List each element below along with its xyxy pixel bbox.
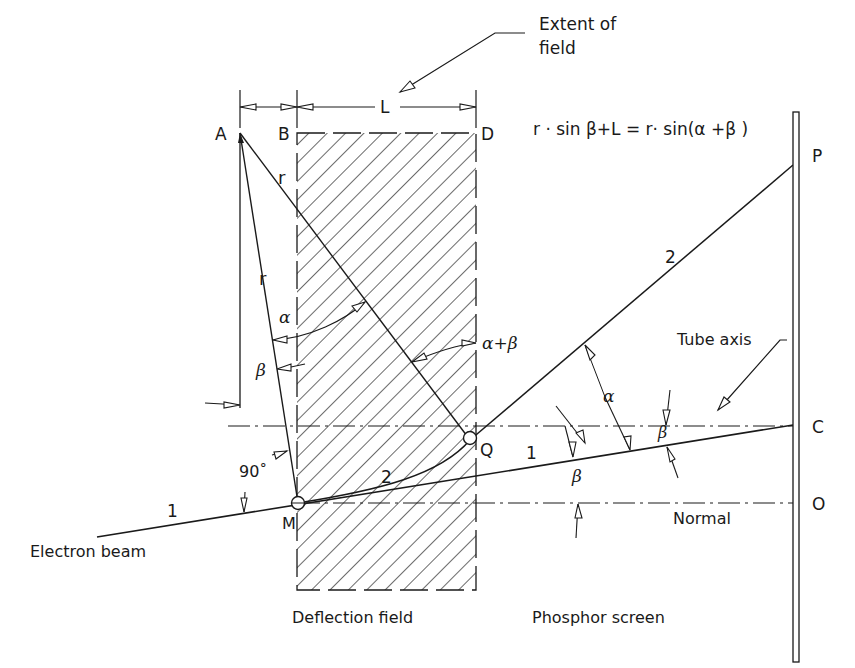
dimension-L xyxy=(240,90,476,128)
label-ray-2-curve: 2 xyxy=(381,467,392,487)
label-d: D xyxy=(481,124,494,144)
extent-of-field-leader xyxy=(400,33,525,92)
label-beta-right-lower: β xyxy=(571,466,582,486)
extent-of-field-label-1: Extent of xyxy=(539,14,617,34)
label-90-deg: 90˚ xyxy=(239,462,267,481)
equation: r · sin β+L = r· sin(α +β ) xyxy=(533,119,748,139)
label-ray-2-line: 2 xyxy=(665,247,676,267)
label-m: M xyxy=(282,514,296,533)
deflection-diagram: Extent of field L A B D r · sin β+L = r·… xyxy=(0,0,855,668)
label-deflection-field: Deflection field xyxy=(292,608,413,627)
label-electron-beam: Electron beam xyxy=(30,542,146,561)
label-c: C xyxy=(812,417,824,437)
label-normal: Normal xyxy=(673,509,731,528)
label-o: O xyxy=(812,494,825,514)
label-alpha-left: α xyxy=(279,307,291,327)
label-q: Q xyxy=(480,440,493,460)
deflection-field-region xyxy=(297,133,476,590)
label-alpha-plus-beta: α+β xyxy=(482,333,518,353)
label-ray-1-left: 1 xyxy=(167,501,178,521)
label-beta-left: β xyxy=(255,360,266,380)
label-phosphor-screen: Phosphor screen xyxy=(532,608,665,627)
ray-2-line xyxy=(470,165,793,440)
label-beta-right-upper: β xyxy=(657,423,667,442)
label-r-lower: r xyxy=(259,268,267,289)
label-a: A xyxy=(215,124,227,144)
extent-of-field-label-2: field xyxy=(539,38,576,58)
label-tube-axis: Tube axis xyxy=(676,330,752,349)
diagram-canvas: Extent of field L A B D r · sin β+L = r·… xyxy=(0,0,855,668)
point-q xyxy=(464,432,477,445)
label-ray-1-right: 1 xyxy=(526,443,537,463)
label-r-upper: r xyxy=(278,167,286,188)
label-alpha-right: α xyxy=(603,386,615,406)
label-p: P xyxy=(812,146,822,166)
phosphor-screen xyxy=(793,112,799,662)
label-l: L xyxy=(380,97,390,117)
label-b: B xyxy=(278,124,290,144)
